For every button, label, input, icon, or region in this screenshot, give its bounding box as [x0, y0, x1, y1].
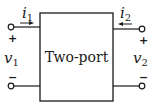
i2-label: i2 [120, 6, 131, 23]
two-port-diagram: i1 i2 + − + − v1 v2 Two-port [0, 0, 155, 108]
v2-label: v2 [133, 51, 148, 68]
port2-plus-terminal [139, 26, 145, 32]
v1-label: v1 [4, 51, 19, 68]
port1-minus-terminal [8, 83, 14, 89]
v2-subscript: 2 [141, 57, 147, 68]
port1-plus-terminal [8, 24, 14, 30]
port1-plus-sign: + [8, 33, 17, 44]
port1-minus-sign: − [8, 72, 17, 83]
port2-plus-sign: + [139, 35, 148, 46]
two-port-label: Two-port [40, 50, 113, 64]
i1-label: i1 [22, 6, 33, 23]
v1-subscript: 1 [12, 57, 18, 68]
i1-subscript: 1 [27, 12, 33, 23]
i2-subscript: 2 [125, 12, 131, 23]
port2-minus-sign: − [139, 72, 148, 83]
port2-minus-terminal [139, 83, 145, 89]
